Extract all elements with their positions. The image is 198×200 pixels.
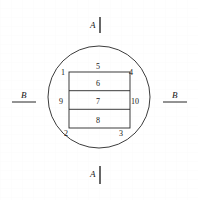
region-label-8: 8: [96, 117, 100, 125]
region-label-3: 3: [119, 130, 123, 138]
section-marker-a-bottom-label: A: [90, 170, 96, 179]
section-marker-a-top-label: A: [90, 21, 96, 30]
region-label-4: 4: [129, 69, 133, 77]
region-label-6: 6: [96, 80, 100, 88]
region-label-5: 5: [96, 63, 100, 71]
section-marker-b-left-label: B: [21, 91, 27, 100]
region-label-10: 10: [131, 98, 139, 106]
figure-diagram: A A B B 1 2 3 4 5 6 7 8 9 10: [0, 0, 198, 200]
section-marker-b-right-label: B: [172, 91, 178, 100]
region-label-1: 1: [61, 69, 65, 77]
region-label-9: 9: [59, 98, 63, 106]
region-label-2: 2: [64, 130, 68, 138]
region-label-7: 7: [96, 98, 100, 106]
